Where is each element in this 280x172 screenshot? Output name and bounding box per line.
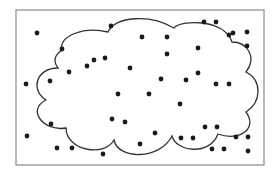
point [196,71,201,76]
point [165,35,170,40]
point [222,147,227,152]
point [138,142,143,147]
point [109,24,114,29]
point [153,131,158,136]
point [184,78,189,83]
point [67,70,72,75]
point [92,58,97,63]
point [214,20,219,25]
point [60,47,65,52]
point [123,120,128,125]
point [85,64,90,69]
point [159,77,164,82]
point [202,20,207,25]
point [165,52,170,57]
point [140,35,145,40]
point [246,149,251,154]
point [128,66,133,71]
point [214,82,219,87]
point [48,79,53,84]
point [245,30,250,35]
point [101,152,106,157]
point [178,102,183,107]
point [203,125,208,130]
diagram-canvas [0,0,280,172]
point [245,44,250,49]
point [35,31,40,36]
point [196,46,201,51]
point [55,146,60,151]
point [147,92,152,97]
point [210,147,215,152]
point [215,125,220,130]
point [70,146,75,151]
point [103,56,108,61]
point [179,136,184,141]
point [24,82,29,87]
point [49,122,54,127]
point [231,31,236,36]
point [110,117,115,122]
point [25,134,30,139]
point [227,82,232,87]
point [246,135,251,140]
point [234,135,239,140]
point [116,92,121,97]
cloud-diagram [0,0,280,172]
point [191,136,196,141]
cloud-shape [37,19,258,155]
